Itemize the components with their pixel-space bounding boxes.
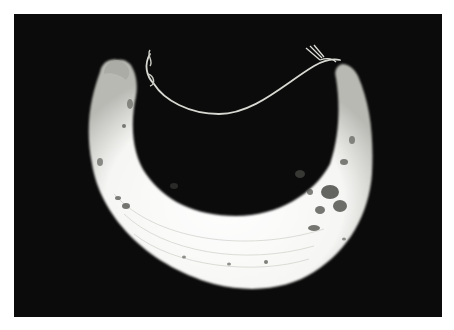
page xyxy=(0,0,454,330)
shell-pendant-illustration xyxy=(14,14,442,317)
cord-knot-right xyxy=(306,45,336,62)
photograph xyxy=(14,14,442,317)
pendant-cord xyxy=(147,54,340,114)
